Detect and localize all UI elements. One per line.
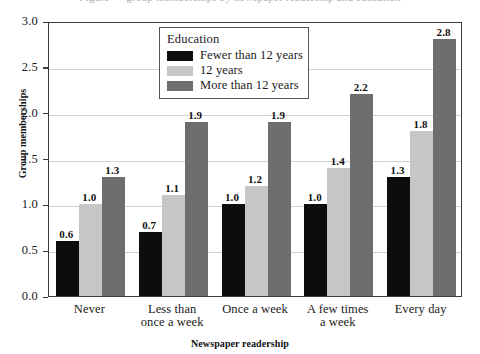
gridline bbox=[49, 161, 461, 162]
bar-value-label: 1.2 bbox=[238, 173, 273, 185]
bar-value-label: 1.0 bbox=[72, 191, 107, 203]
bar bbox=[433, 39, 456, 296]
top-caption-fragment: Figure — group memberships by newspaper … bbox=[0, 0, 480, 5]
legend-swatch bbox=[167, 81, 193, 91]
x-tick-label-line: a week bbox=[283, 316, 393, 329]
bar bbox=[139, 232, 162, 296]
legend-item: More than 12 years bbox=[167, 78, 302, 93]
gridline bbox=[49, 115, 461, 116]
x-tick-label: Every day bbox=[366, 303, 476, 316]
legend-item-label: More than 12 years bbox=[200, 78, 299, 93]
bar-value-label: 1.4 bbox=[320, 155, 355, 167]
bar-value-label: 1.3 bbox=[95, 164, 130, 176]
bar-value-label: 1.3 bbox=[380, 164, 415, 176]
legend-item-label: Fewer than 12 years bbox=[200, 48, 303, 63]
bar bbox=[350, 94, 373, 296]
x-tick-label-line: Every day bbox=[366, 303, 476, 316]
legend-item-label: 12 years bbox=[200, 63, 243, 78]
bar-chart-figure: Figure — group memberships by newspaper … bbox=[0, 0, 480, 354]
bar bbox=[268, 122, 291, 296]
y-tick-label: 3.0 bbox=[8, 14, 38, 29]
bar-value-label: 1.8 bbox=[403, 118, 438, 130]
bar-value-label: 2.2 bbox=[343, 81, 378, 93]
legend-item: 12 years bbox=[167, 63, 302, 78]
bar-value-label: 1.1 bbox=[155, 182, 190, 194]
bar bbox=[327, 168, 350, 296]
bar-value-label: 0.7 bbox=[132, 219, 167, 231]
legend-swatch bbox=[167, 51, 193, 61]
legend: Education Fewer than 12 years12 yearsMor… bbox=[159, 27, 309, 99]
bar-value-label: 1.0 bbox=[297, 191, 332, 203]
bar bbox=[304, 204, 327, 296]
legend-swatch bbox=[167, 66, 193, 76]
legend-item: Fewer than 12 years bbox=[167, 48, 302, 63]
bar-value-label: 2.8 bbox=[426, 26, 461, 38]
bar-value-label: 1.9 bbox=[178, 109, 213, 121]
legend-title: Education bbox=[167, 32, 302, 47]
bar-value-label: 0.6 bbox=[49, 228, 84, 240]
bar bbox=[162, 195, 185, 296]
bar bbox=[56, 241, 79, 296]
bar bbox=[79, 204, 102, 296]
bar-value-label: 1.0 bbox=[215, 191, 250, 203]
bar bbox=[387, 177, 410, 296]
x-axis-label: Newspaper readership bbox=[0, 338, 480, 349]
x-tick-label-line: once a week bbox=[117, 316, 227, 329]
y-axis-label: Group memberships bbox=[17, 64, 28, 204]
bar-value-label: 1.9 bbox=[261, 109, 296, 121]
bar bbox=[222, 204, 245, 296]
legend-items: Fewer than 12 years12 yearsMore than 12 … bbox=[167, 48, 302, 93]
bar bbox=[185, 122, 208, 296]
y-tick-label: 0.5 bbox=[8, 243, 38, 258]
y-tick-label: 0.0 bbox=[8, 289, 38, 304]
bar bbox=[410, 131, 433, 296]
